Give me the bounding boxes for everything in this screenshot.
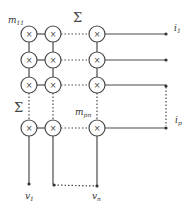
- input-terminal-v1: [27, 182, 30, 185]
- multiply-icon: ×: [26, 81, 33, 90]
- multiply-icon: ×: [94, 30, 101, 39]
- multiply-icon: ×: [94, 56, 101, 65]
- left-sum-label: Σ: [14, 100, 23, 115]
- output-terminal-ip: [164, 126, 167, 129]
- top-sum-label: Σ: [73, 10, 82, 25]
- multiply-icon: ×: [50, 124, 57, 133]
- multiply-icon: ×: [26, 30, 33, 39]
- multiply-icon: ×: [26, 124, 33, 133]
- multiply-icon: ×: [94, 124, 101, 133]
- multiply-icon: ×: [50, 30, 57, 39]
- input-terminal-v2: [52, 183, 55, 186]
- output-terminal-i3: [164, 84, 167, 87]
- input-label-vn: vn: [92, 191, 101, 202]
- multiply-icon: ×: [50, 81, 57, 90]
- weight-label-m11: m11: [8, 15, 24, 26]
- output-label-i1: i1: [174, 23, 181, 34]
- output-terminal-i2: [164, 58, 167, 61]
- input-dotted-connector: [54, 185, 96, 186]
- output-terminal-i1: [164, 32, 167, 35]
- weight-label-mpn: mpn: [75, 107, 91, 119]
- multiply-icon: ×: [26, 56, 33, 65]
- input-terminal-vn: [95, 184, 98, 187]
- input-label-v1: v1: [25, 191, 34, 202]
- multiplier-array-diagram: × × × × × × × × × × × × Σ Σ m11 mpn i1 i…: [0, 0, 196, 212]
- multiply-icon: ×: [50, 56, 57, 65]
- output-label-ip: ip: [175, 115, 182, 127]
- multiply-icon: ×: [94, 81, 101, 90]
